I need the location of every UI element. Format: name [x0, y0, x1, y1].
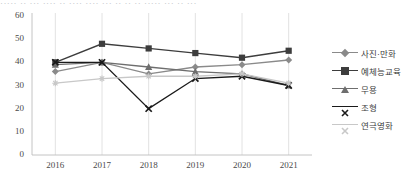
series-사진·만화 [52, 57, 292, 78]
data-point [239, 55, 245, 61]
legend-item[interactable]: 연극영화 [332, 116, 406, 134]
data-point [285, 57, 292, 64]
data-point [192, 50, 198, 56]
data-point [239, 71, 245, 77]
legend-marker-icon [332, 65, 358, 77]
legend-marker-icon [332, 101, 358, 113]
data-point [146, 45, 152, 51]
data-point [99, 41, 105, 47]
data-point [52, 80, 58, 86]
legend-label: 예체능교육 [358, 65, 401, 77]
legend-item[interactable]: 조형 [332, 98, 406, 116]
series-line [55, 44, 288, 63]
series-조형 [52, 59, 292, 112]
y-tick-label: 50 [2, 33, 24, 43]
x-tick-label: 2021 [267, 160, 311, 170]
data-point [286, 48, 292, 54]
x-tick-label: 2016 [33, 160, 77, 170]
x-tick-label: 2020 [220, 160, 264, 170]
legend-marker-icon [332, 47, 358, 59]
y-tick-label: 10 [2, 126, 24, 136]
x-tick-label: 2017 [80, 160, 124, 170]
x-tick-label: 2018 [127, 160, 171, 170]
legend-marker-icon [332, 119, 358, 131]
chart-legend: 사진·만화예체능교육무용조형연극영화 [332, 44, 406, 134]
cropped-caption-text: ····· ·· ··· ···· ·· ···· ···· ··· ·· ··… [0, 0, 406, 7]
y-tick-label: 0 [2, 149, 24, 159]
y-tick-label: 20 [2, 103, 24, 113]
data-point [146, 73, 152, 79]
chart-screenshot: ····· ·· ··· ···· ·· ···· ···· ··· ·· ··… [0, 0, 406, 190]
data-point [286, 80, 292, 86]
data-point [192, 73, 198, 79]
data-point [52, 68, 59, 75]
y-tick-label: 40 [2, 56, 24, 66]
series-line [55, 62, 288, 85]
legend-label: 연극영화 [358, 119, 393, 131]
y-tick-label: 60 [2, 10, 24, 20]
legend-label: 무용 [358, 83, 377, 95]
data-point [239, 61, 246, 68]
x-tick-label: 2019 [173, 160, 217, 170]
data-point [99, 75, 105, 81]
y-tick-label: 30 [2, 80, 24, 90]
legend-label: 조형 [358, 101, 377, 113]
legend-item[interactable]: 예체능교육 [332, 62, 406, 80]
legend-item[interactable]: 무용 [332, 80, 406, 98]
legend-label: 사진·만화 [358, 47, 396, 59]
legend-item[interactable]: 사진·만화 [332, 44, 406, 62]
legend-marker-icon [332, 83, 358, 95]
